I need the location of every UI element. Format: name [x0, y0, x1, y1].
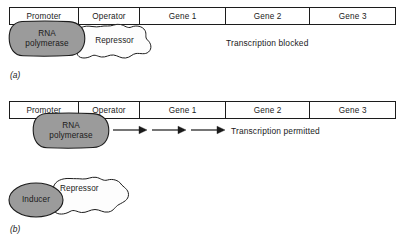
repressor-blob-icon [74, 22, 155, 60]
repressor-shape-a: Repressor [74, 22, 155, 60]
rna-polymerase-shape-b: RNA polymerase [32, 112, 110, 149]
bar-segment-gene2: Gene 2 [226, 102, 311, 118]
status-text-a: Transcription blocked [226, 38, 308, 48]
bar-segment-gene3: Gene 3 [310, 8, 395, 24]
rna-polymerase-blob-icon [8, 20, 86, 57]
inducer-shape-b: Inducer [8, 182, 64, 218]
panel-label-a: (a) [10, 70, 20, 80]
bar-segment-gene2: Gene 2 [226, 8, 311, 24]
rna-polymerase-blob-icon [32, 112, 110, 149]
panel-label-b: (b) [10, 224, 20, 234]
bar-segment-gene3: Gene 3 [310, 102, 395, 118]
status-text-b: Transcription permitted [231, 126, 320, 136]
transcription-arrows [113, 123, 225, 137]
bar-segment-gene1: Gene 1 [140, 102, 226, 118]
arrow-right-icon-group [113, 123, 225, 137]
rna-polymerase-shape-a: RNA polymerase [8, 20, 86, 57]
inducer-oval-icon [8, 182, 64, 218]
